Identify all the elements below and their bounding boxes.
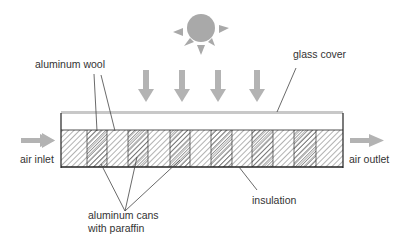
label-air-inlet: air inlet xyxy=(20,153,54,165)
radiation-arrows xyxy=(138,70,265,102)
glass-cover xyxy=(61,111,343,114)
down-arrow-icon xyxy=(138,70,154,102)
right-arrow-icon xyxy=(350,134,384,147)
label-insulation: insulation xyxy=(252,194,297,206)
label-air-outlet: air outlet xyxy=(349,153,389,165)
collector-box xyxy=(61,113,343,168)
down-arrow-icon xyxy=(249,70,265,102)
label-cans-line2: with paraffin xyxy=(87,222,145,234)
right-arrow-icon xyxy=(21,133,55,148)
down-arrow-icon xyxy=(174,70,190,102)
label-glass-cover: glass cover xyxy=(293,48,347,60)
collector-diagram: aluminum wool glass cover air inlet air … xyxy=(0,0,408,243)
sun-icon xyxy=(173,14,229,55)
label-cans-line1: aluminum cans xyxy=(88,209,159,221)
down-arrow-icon xyxy=(210,70,226,102)
label-aluminum-wool: aluminum wool xyxy=(35,58,105,70)
